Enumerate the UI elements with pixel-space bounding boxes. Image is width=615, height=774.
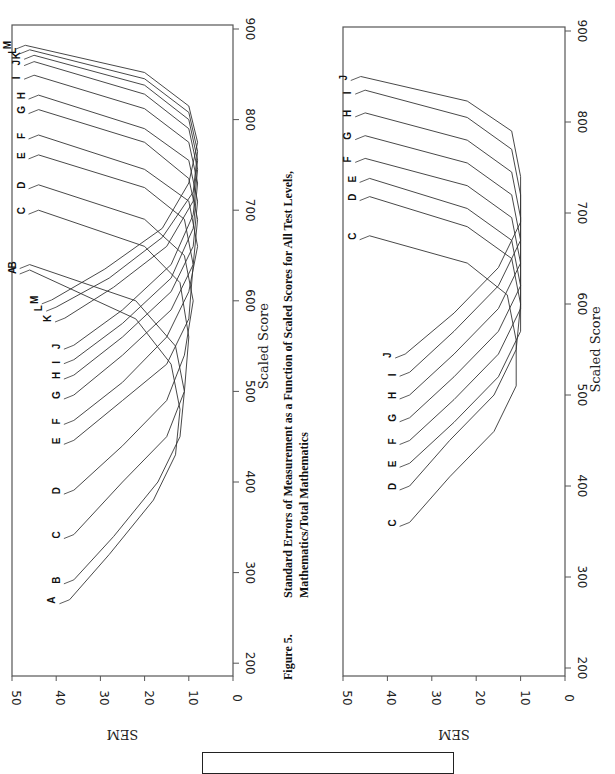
- series-J: [34, 62, 198, 346]
- page-box: [202, 752, 454, 774]
- series-label: L: [33, 305, 44, 311]
- series-label: E: [16, 152, 27, 159]
- series-label: C: [16, 207, 27, 214]
- y-axis-title: SEM: [438, 727, 470, 742]
- y-tick-label: 50: [340, 690, 354, 705]
- series-label: I: [51, 361, 62, 364]
- y-axis-title: SEM: [107, 727, 139, 742]
- series-label: J: [338, 75, 349, 81]
- figure-label: Figure 5.: [281, 634, 295, 680]
- series-label: M: [29, 296, 40, 304]
- y-tick-label: 10: [186, 690, 200, 705]
- series-label: H: [342, 110, 353, 117]
- series-label: E: [387, 460, 398, 467]
- y-tick-label: 10: [518, 690, 532, 705]
- x-tick-label: 800: [575, 111, 589, 134]
- y-tick-label: 0: [230, 694, 244, 702]
- y-tick-label: 50: [9, 690, 23, 705]
- series-label: G: [342, 132, 353, 140]
- series-label: D: [387, 483, 398, 490]
- series-label: F: [387, 438, 398, 444]
- x-tick-label: 200: [243, 652, 257, 675]
- y-tick-label: 40: [384, 690, 398, 705]
- chart-2: 20030040050060070080090001020304050Scale…: [338, 20, 603, 742]
- series-label: B: [51, 577, 62, 584]
- series-C: [370, 236, 517, 523]
- x-tick-label: 900: [575, 20, 589, 43]
- x-tick-label: 700: [243, 199, 257, 222]
- x-tick-label: 900: [243, 18, 257, 41]
- x-tick-label: 600: [243, 289, 257, 312]
- series-K: [34, 55, 198, 318]
- series-label: J: [51, 344, 62, 350]
- plot-frame: [12, 25, 233, 676]
- series-label: B: [7, 261, 18, 268]
- series-label: H: [16, 92, 27, 99]
- series-G: [39, 110, 198, 395]
- series-label: G: [387, 414, 398, 422]
- y-tick-label: 20: [473, 690, 487, 705]
- figure-caption: Figure 5.Standard Errors of Measurement …: [281, 171, 311, 680]
- series-label: F: [16, 133, 27, 139]
- x-tick-label: 800: [243, 108, 257, 131]
- series-M: [25, 45, 197, 300]
- y-tick-label: 0: [562, 694, 576, 702]
- x-tick-label: 300: [243, 561, 257, 584]
- series-label: G: [16, 106, 27, 114]
- series-label: H: [51, 372, 62, 379]
- caption-line-1: Standard Errors of Measurement as a Func…: [281, 171, 295, 598]
- series-label: J: [11, 60, 22, 66]
- series-label: K: [42, 314, 53, 322]
- y-tick-label: 30: [429, 690, 443, 705]
- x-axis-title: Scaled Score: [588, 306, 603, 392]
- plot-frame: [343, 27, 565, 676]
- x-tick-label: 400: [575, 475, 589, 498]
- series-label: C: [387, 519, 398, 526]
- series-label: J: [382, 352, 393, 358]
- series-label: F: [342, 156, 353, 162]
- x-tick-label: 600: [575, 293, 589, 316]
- series-label: E: [347, 175, 358, 182]
- series-label: D: [51, 487, 62, 494]
- x-axis-title: Scaled Score: [256, 303, 271, 389]
- series-label: E: [51, 437, 62, 444]
- series-label: F: [51, 418, 62, 424]
- x-tick-label: 400: [243, 471, 257, 494]
- series-I: [365, 90, 520, 372]
- y-tick-label: 20: [142, 690, 156, 705]
- y-tick-label: 40: [53, 690, 67, 705]
- series-label: I: [387, 373, 398, 376]
- series-label: A: [46, 597, 57, 604]
- x-tick-label: 700: [575, 202, 589, 225]
- x-tick-label: 300: [575, 566, 589, 589]
- chart-1: 20030040050060070080090001020304050Scale…: [2, 18, 271, 742]
- series-label: D: [347, 193, 358, 200]
- series-label: C: [347, 233, 358, 240]
- x-tick-label: 200: [575, 657, 589, 680]
- series-label: D: [16, 182, 27, 189]
- series-label: I: [342, 91, 353, 94]
- series-label: H: [387, 392, 398, 399]
- x-tick-label: 500: [243, 380, 257, 403]
- x-tick-label: 500: [575, 384, 589, 407]
- caption-line-2: Mathematics/Total Mathematics: [297, 432, 311, 598]
- series-label: I: [11, 76, 22, 79]
- series-label: M: [2, 41, 13, 49]
- series-label: G: [51, 391, 62, 399]
- series-label: C: [51, 531, 62, 538]
- y-tick-label: 30: [97, 690, 111, 705]
